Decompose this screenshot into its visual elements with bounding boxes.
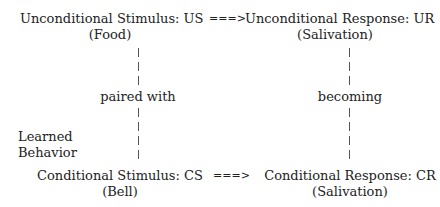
connector-dash (349, 62, 350, 71)
connector-dash (349, 76, 350, 85)
connector-dash (138, 48, 139, 57)
us-title: Unconditional Stimulus: US (20, 11, 200, 27)
connector-dash (349, 136, 350, 145)
becoming-label: becoming (290, 89, 410, 105)
cr-sub: (Salivation) (260, 184, 440, 200)
ur-title: Unconditional Response: UR (245, 11, 425, 27)
learned-label: Learned (18, 129, 73, 145)
connector-dash (138, 76, 139, 85)
behavior-label: Behavior (18, 145, 77, 161)
connector-dash (138, 122, 139, 131)
arrow-top: ===> (209, 11, 246, 27)
us-sub: (Food) (20, 27, 200, 43)
ur-sub: (Salivation) (245, 27, 425, 43)
cs-title: Conditional Stimulus: CS (30, 168, 210, 184)
connector-dash (349, 48, 350, 57)
cs-sub: (Bell) (30, 184, 210, 200)
paired-with-label: paired with (78, 89, 198, 105)
connector-dash (138, 108, 139, 117)
arrow-bottom: ===> (213, 168, 250, 184)
connector-dash (349, 108, 350, 117)
connector-dash (349, 122, 350, 131)
connector-dash (349, 150, 350, 159)
cr-title: Conditional Response: CR (260, 168, 440, 184)
connector-dash (138, 62, 139, 71)
connector-dash (138, 150, 139, 159)
connector-dash (138, 136, 139, 145)
